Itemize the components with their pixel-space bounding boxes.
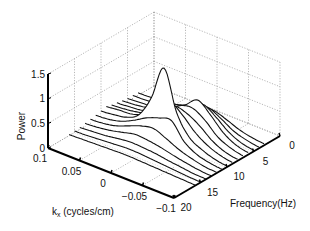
y-tick-label: 10 [233,171,245,182]
x-tick-label: 0.1 [33,153,47,164]
x-tick-label: −0.1 [156,203,176,214]
y-tick-label: 15 [207,187,219,198]
z-tick-label: 0.5 [31,118,45,129]
z-tick-label: 1 [39,93,45,104]
x-tick-label: −0.05 [122,191,148,202]
x-axis-label: kx (cycles/cm) [52,206,114,218]
y-tick-label: 20 [180,202,192,213]
z-tick-label: 1.5 [31,69,45,80]
x-tick-label: 0 [100,178,106,189]
y-tick-label: 0 [289,140,295,151]
x-tick-label: 0.05 [62,166,82,177]
y-axis-label: Frequency(Hz) [230,198,296,209]
z-tick-label: 0 [39,143,45,154]
waterfall-plot: 00.511.50.10.050−0.05−0.105101520 Power … [0,0,310,231]
z-axis-label: Power [16,111,27,140]
y-tick-label: 5 [263,156,269,167]
x-axis-label-units: (cycles/cm) [61,206,114,217]
